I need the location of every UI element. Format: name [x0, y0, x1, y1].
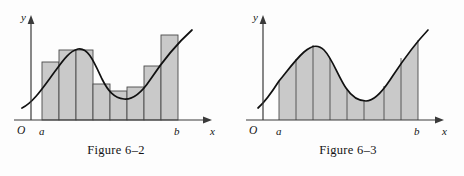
bar-7	[144, 66, 161, 120]
right-bound-label: b	[174, 125, 180, 137]
x-axis-label: x	[209, 125, 215, 137]
figure-6-3: y x O a b Figure 6–3	[232, 0, 464, 176]
area-under-curve	[279, 40, 418, 120]
x-axis-arrow-icon	[435, 117, 444, 124]
origin-label: O	[249, 124, 258, 136]
left-bound-label: a	[276, 125, 282, 137]
y-axis-arrow-icon	[28, 15, 35, 24]
right-bound-label: b	[414, 125, 420, 137]
origin-label: O	[17, 124, 26, 136]
left-bound-label: a	[39, 125, 45, 137]
y-axis-label: y	[252, 11, 258, 23]
bar-3	[76, 50, 93, 120]
riemann-bars	[42, 35, 178, 120]
x-axis-label: x	[441, 125, 447, 137]
y-axis-label: y	[20, 11, 26, 23]
x-axis-arrow-icon	[203, 117, 212, 124]
y-axis-arrow-icon	[260, 15, 267, 24]
figure-6-2-plot: y x O a b	[0, 4, 232, 144]
bar-2	[59, 50, 76, 120]
bar-5	[110, 91, 127, 120]
figure-6-3-caption: Figure 6–3	[232, 143, 464, 158]
figure-6-3-plot: y x O a b	[232, 4, 464, 144]
figure-6-2-caption: Figure 6–2	[0, 143, 232, 158]
figure-6-2: y x O a b Figure 6–2	[0, 0, 232, 176]
figure-page: y x O a b Figure 6–2	[0, 0, 464, 176]
